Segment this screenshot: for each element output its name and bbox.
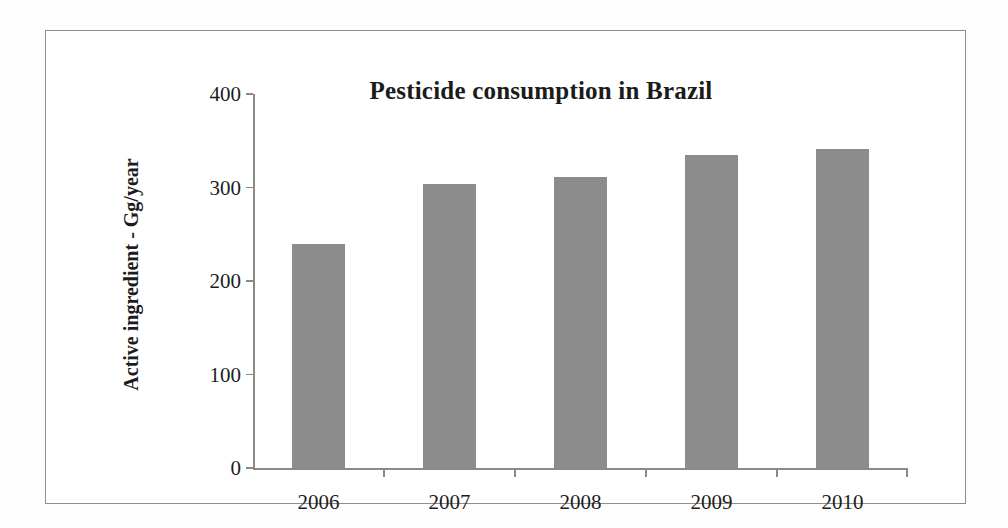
x-tick (776, 468, 778, 477)
y-tick-label: 300 (210, 177, 242, 198)
x-tick (383, 468, 385, 477)
bar-2010 (816, 149, 869, 468)
bar-2006 (292, 244, 345, 468)
y-tick-100 (246, 374, 253, 376)
y-tick-300 (246, 187, 253, 189)
x-tick-label-2010: 2010 (822, 490, 864, 515)
y-axis-line (253, 94, 255, 468)
x-axis-line (253, 468, 908, 470)
x-tick-label-2007: 2007 (429, 490, 471, 515)
y-tick-label: 200 (210, 271, 242, 292)
x-tick (514, 468, 516, 477)
y-tick-0 (246, 467, 253, 469)
bar-2007 (423, 184, 476, 468)
y-tick-label: 400 (210, 84, 242, 105)
x-tick (645, 468, 647, 477)
y-tick-400 (246, 93, 253, 95)
bar-2008 (554, 177, 607, 468)
y-tick-200 (246, 280, 253, 282)
y-axis-title: Active ingredient - Gg/year (120, 110, 143, 440)
x-axis-end-tick (906, 468, 908, 477)
bar-2009 (685, 155, 738, 468)
scanned-page: Pesticide consumption in Brazil Active i… (0, 0, 1008, 528)
plot-area: 0100200300400 20062007200820092010 (253, 94, 908, 468)
x-tick-label-2009: 2009 (691, 490, 733, 515)
y-tick-label: 0 (231, 458, 242, 479)
figure-frame: Pesticide consumption in Brazil Active i… (45, 30, 966, 504)
x-tick-label-2006: 2006 (298, 490, 340, 515)
x-tick-label-2008: 2008 (560, 490, 602, 515)
y-tick-label: 100 (210, 364, 242, 385)
